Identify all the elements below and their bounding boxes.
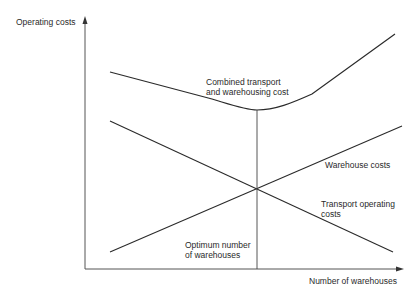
combined-cost-label-line2: and warehousing cost (206, 87, 289, 97)
y-axis-label: Operating costs (16, 17, 76, 27)
transport-cost-label-line1: Transport operating (321, 199, 395, 209)
optimum-label-line2: of warehouses (185, 250, 251, 260)
x-axis-label: Number of warehouses (309, 276, 397, 286)
y-axis (83, 16, 88, 269)
x-axis-arrow-icon (396, 267, 404, 272)
transport-cost-line (110, 121, 393, 252)
warehouse-cost-line (110, 126, 402, 252)
optimum-label: Optimum number of warehouses (185, 240, 251, 260)
combined-cost-curve (110, 34, 395, 110)
combined-cost-label: Combined transport and warehousing cost (206, 77, 289, 97)
transport-cost-label-line2: costs (321, 209, 395, 219)
y-axis-arrow-icon (83, 16, 88, 24)
transport-cost-label: Transport operating costs (321, 199, 395, 219)
warehouse-cost-label: Warehouse costs (325, 160, 390, 170)
optimum-label-line1: Optimum number (185, 240, 251, 250)
x-axis (85, 267, 404, 272)
combined-cost-label-line1: Combined transport (206, 77, 289, 87)
